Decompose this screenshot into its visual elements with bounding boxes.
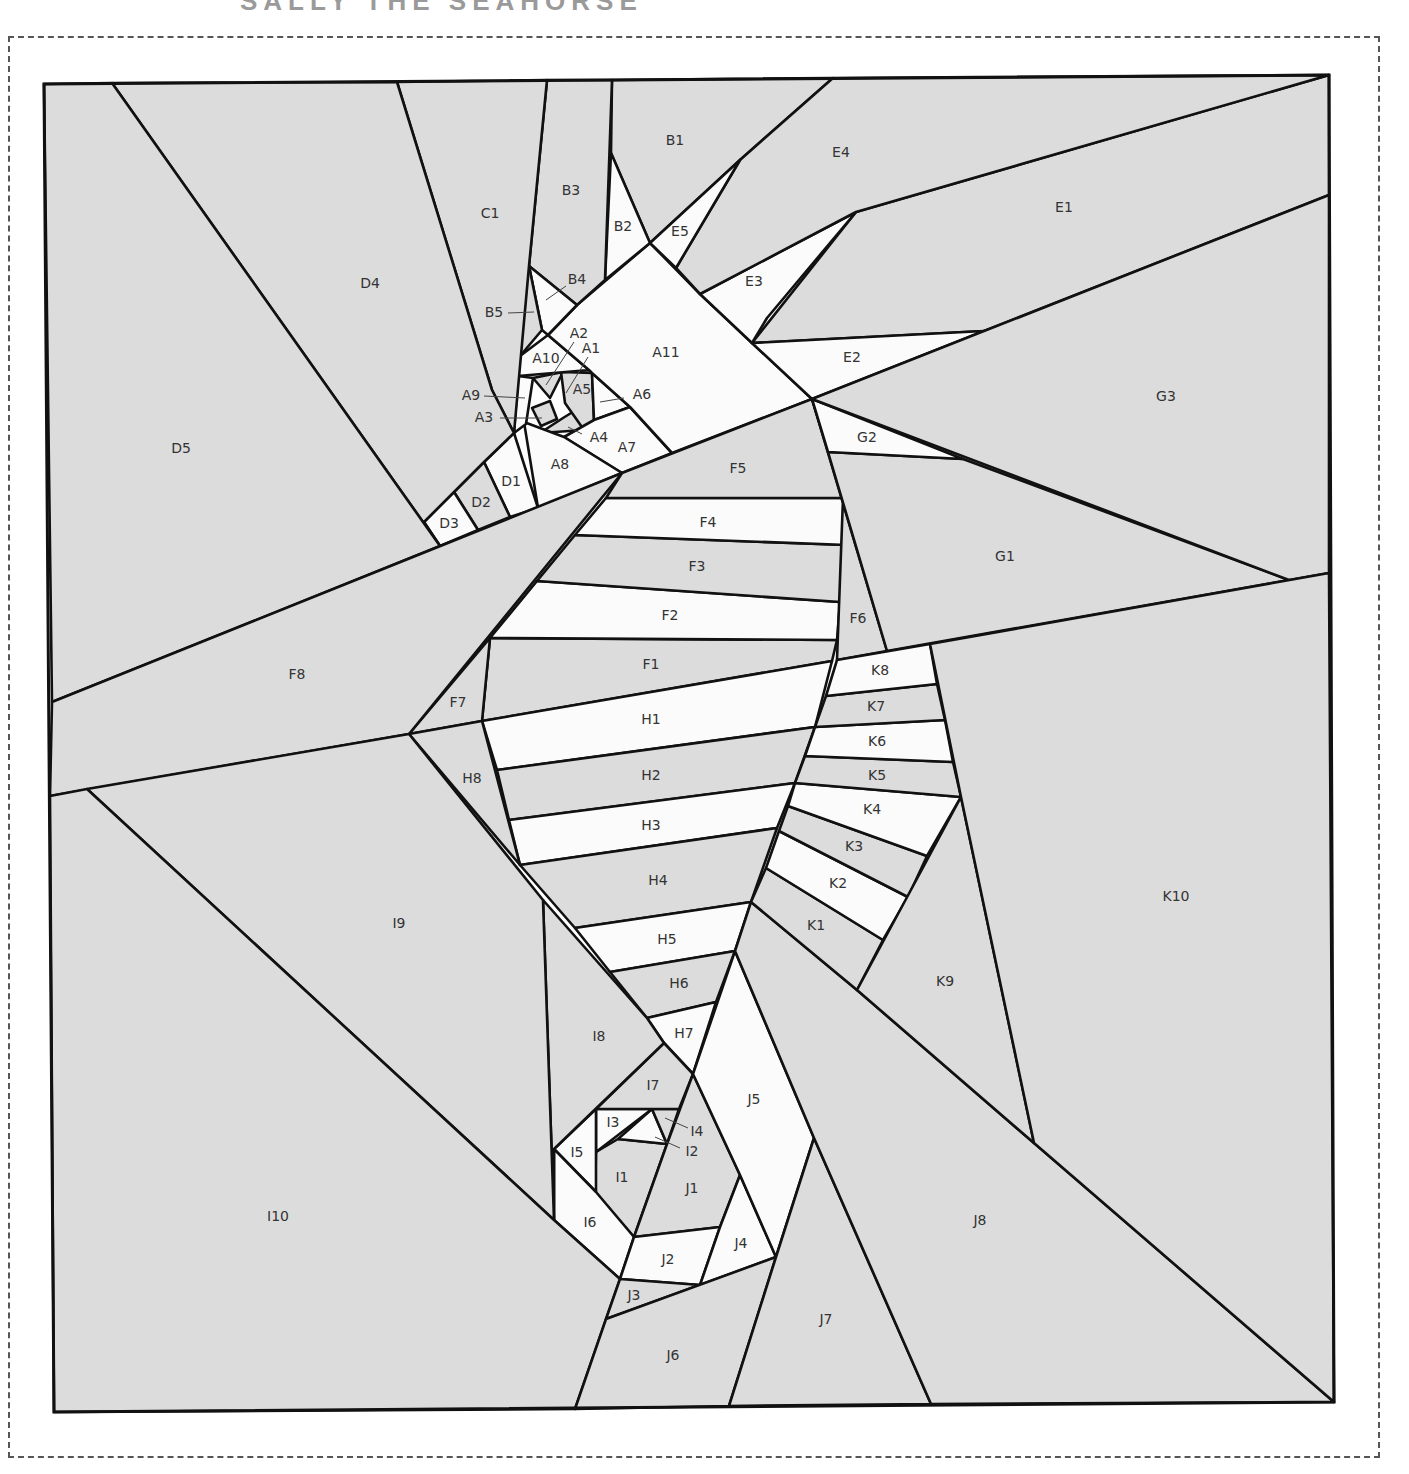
piece-label: G1 bbox=[995, 548, 1015, 564]
piece-label: G3 bbox=[1156, 388, 1176, 404]
piece-label: K3 bbox=[845, 838, 863, 854]
piece-label: J3 bbox=[626, 1287, 640, 1303]
piece-label: D3 bbox=[439, 515, 459, 531]
piece-label: F5 bbox=[730, 460, 747, 476]
piece-label: A10 bbox=[532, 350, 559, 366]
piece-label: A1 bbox=[582, 340, 600, 356]
piece-label: B3 bbox=[562, 182, 581, 198]
piece-label: F7 bbox=[450, 694, 467, 710]
piece-label: H7 bbox=[674, 1025, 693, 1041]
seahorse-pattern: A1A2A3A4A5A6A7A8A9A10A11B1B2B3B4B5C1D1D2… bbox=[0, 0, 1409, 1474]
piece-label: B1 bbox=[666, 132, 685, 148]
piece-label: H8 bbox=[462, 770, 481, 786]
piece-label: I1 bbox=[615, 1169, 628, 1185]
piece-label: I4 bbox=[690, 1123, 703, 1139]
piece-label: K4 bbox=[863, 801, 881, 817]
piece-label: J2 bbox=[660, 1251, 674, 1267]
piece-label: I8 bbox=[592, 1028, 605, 1044]
piece-label: I6 bbox=[583, 1214, 596, 1230]
piece-label: H2 bbox=[641, 767, 660, 783]
piece-label: J1 bbox=[684, 1180, 698, 1196]
piece-label: J6 bbox=[665, 1347, 679, 1363]
piece-label: F4 bbox=[700, 514, 717, 530]
piece-label: J4 bbox=[733, 1235, 747, 1251]
piece-label: J8 bbox=[972, 1212, 986, 1228]
piece-label: E5 bbox=[671, 223, 689, 239]
piece-label: A2 bbox=[570, 325, 588, 341]
piece-label: K10 bbox=[1163, 888, 1190, 904]
piece-label: I2 bbox=[685, 1143, 698, 1159]
piece-label: D4 bbox=[360, 275, 380, 291]
piece-label: F8 bbox=[289, 666, 306, 682]
piece-label: F1 bbox=[643, 656, 660, 672]
piece-label: I3 bbox=[606, 1114, 619, 1130]
piece-label: K6 bbox=[868, 733, 886, 749]
piece-a3 bbox=[532, 401, 557, 426]
piece-label: E4 bbox=[832, 144, 850, 160]
piece-label: E1 bbox=[1055, 199, 1073, 215]
piece-label: H1 bbox=[641, 711, 660, 727]
piece-label: H4 bbox=[648, 872, 668, 888]
piece-label: E2 bbox=[843, 349, 861, 365]
piece-label: K8 bbox=[871, 662, 889, 678]
piece-label: K7 bbox=[867, 698, 885, 714]
piece-label: A8 bbox=[551, 456, 569, 472]
piece-label: K9 bbox=[936, 973, 954, 989]
piece-label: C1 bbox=[481, 205, 500, 221]
piece-label: K1 bbox=[807, 917, 825, 933]
piece-label: H5 bbox=[657, 931, 676, 947]
piece-label: H3 bbox=[641, 817, 660, 833]
piece-label: A9 bbox=[462, 387, 480, 403]
piece-label: B2 bbox=[614, 218, 633, 234]
piece-label: I9 bbox=[392, 915, 405, 931]
piece-label: D5 bbox=[171, 440, 191, 456]
piece-label: I10 bbox=[267, 1208, 289, 1224]
piece-label: J7 bbox=[818, 1311, 832, 1327]
piece-label: E3 bbox=[745, 273, 763, 289]
piece-label: B5 bbox=[485, 304, 504, 320]
piece-label: A7 bbox=[618, 439, 636, 455]
piece-label: G2 bbox=[857, 429, 877, 445]
piece-label: A6 bbox=[633, 386, 652, 402]
piece-label: B4 bbox=[568, 271, 587, 287]
piece-label: F3 bbox=[689, 558, 706, 574]
piece-label: A4 bbox=[590, 429, 609, 445]
piece-label: I5 bbox=[570, 1144, 583, 1160]
piece-label: I7 bbox=[646, 1077, 659, 1093]
piece-label: D2 bbox=[471, 494, 491, 510]
piece-label: A5 bbox=[573, 381, 591, 397]
piece-label: D1 bbox=[501, 473, 521, 489]
piece-label: A3 bbox=[475, 409, 493, 425]
piece-label: K2 bbox=[829, 875, 847, 891]
pattern-pieces bbox=[44, 75, 1334, 1412]
piece-label: K5 bbox=[868, 767, 886, 783]
piece-label: F6 bbox=[850, 610, 867, 626]
piece-a2 bbox=[533, 372, 563, 398]
piece-label: H6 bbox=[669, 975, 689, 991]
piece-label: F2 bbox=[662, 607, 679, 623]
piece-label: A11 bbox=[652, 344, 679, 360]
piece-label: J5 bbox=[746, 1091, 760, 1107]
